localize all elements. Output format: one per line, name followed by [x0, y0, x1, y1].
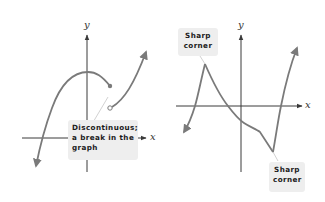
closed-dot-icon [108, 84, 112, 88]
callout-line: Sharp [182, 31, 214, 41]
left-curve-segment-2 [112, 52, 146, 107]
right-curve-middle [205, 64, 273, 152]
left-y-axis-label: y [84, 20, 90, 30]
bottom-callout-pointer [273, 152, 278, 161]
right-curve-left-branch [184, 64, 205, 132]
left-x-axis-label: x [150, 132, 156, 142]
right-x-axis-label: x [305, 100, 311, 110]
callout-line: corner [273, 175, 301, 185]
top-callout-pointer [200, 56, 205, 64]
callout-line: Discontinuous; [72, 123, 134, 133]
callout-line: corner [182, 41, 214, 51]
callout-line: a break in the [72, 133, 134, 143]
callout-line: graph [72, 143, 134, 153]
callout-line: Sharp [273, 165, 301, 175]
right-y-axis-label: y [238, 20, 244, 30]
discontinuous-callout: Discontinuous; a break in the graph [68, 120, 138, 160]
sharp-corner-callout-top: Sharp corner [178, 28, 218, 56]
open-circle-icon [108, 106, 112, 110]
right-curve-right-branch [273, 48, 297, 152]
sharp-corner-callout-bottom: Sharp corner [269, 162, 305, 192]
